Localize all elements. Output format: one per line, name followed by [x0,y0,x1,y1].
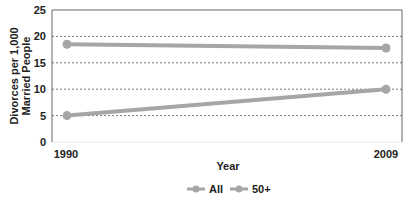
svg-text:1990: 1990 [54,148,78,160]
x-axis-ticks: 1990 2009 [54,148,398,160]
svg-text:25: 25 [34,4,46,16]
svg-text:50+: 50+ [252,183,271,195]
svg-text:Married People: Married People [20,37,32,116]
series-50plus [63,85,391,120]
svg-text:All: All [209,183,223,195]
legend: All 50+ [187,183,271,195]
svg-text:Divorces per 1,000: Divorces per 1,000 [8,27,20,124]
x-axis-label: Year [216,160,240,172]
svg-text:2009: 2009 [374,148,398,160]
y-axis-ticks: 0 5 10 15 20 25 [34,4,46,148]
svg-text:5: 5 [40,110,46,122]
legend-item-all: All [187,183,223,195]
line-chart: 0 5 10 15 20 25 Divorces per 1,000 Marri… [0,0,412,200]
plot-area [52,10,402,142]
legend-item-50plus: 50+ [230,183,271,195]
series-all [63,40,391,53]
svg-text:20: 20 [34,30,46,42]
svg-text:10: 10 [34,83,46,95]
svg-text:0: 0 [40,136,46,148]
y-axis-label: Divorces per 1,000 Married People [8,27,32,124]
svg-text:15: 15 [34,57,46,69]
